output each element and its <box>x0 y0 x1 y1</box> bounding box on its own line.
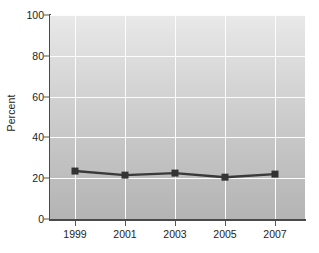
y-tick-label: 80 <box>18 50 44 62</box>
x-axis-line <box>49 219 306 221</box>
x-tick-mark <box>175 220 176 226</box>
x-tick-mark <box>225 220 226 226</box>
x-tick-label: 2003 <box>163 228 186 240</box>
y-tick-mark <box>44 178 50 179</box>
x-tick-label: 2005 <box>213 228 236 240</box>
x-tick-mark <box>75 220 76 226</box>
x-tick-label: 1999 <box>63 228 86 240</box>
y-tick-label: 40 <box>18 131 44 143</box>
y-tick-mark <box>44 219 50 220</box>
x-tick-label: 2001 <box>113 228 136 240</box>
data-point-marker <box>172 170 179 177</box>
plot-area <box>50 15 305 219</box>
x-tick-mark <box>125 220 126 226</box>
data-point-marker <box>222 174 229 181</box>
y-tick-mark <box>44 137 50 138</box>
data-series-layer <box>50 15 305 219</box>
y-tick-mark <box>44 96 50 97</box>
x-tick-label: 2007 <box>263 228 286 240</box>
y-axis-title-label: Percent <box>5 94 17 131</box>
y-tick-label: 100 <box>18 9 44 21</box>
y-axis-tick-labels: 020406080100 <box>18 0 44 253</box>
line-chart: Percent 020406080100 1999200120032005200… <box>0 0 319 253</box>
y-tick-mark <box>44 55 50 56</box>
y-tick-label: 0 <box>18 213 44 225</box>
y-tick-mark <box>44 15 50 16</box>
x-tick-mark <box>275 220 276 226</box>
data-point-marker <box>122 172 129 179</box>
data-point-marker <box>272 171 279 178</box>
y-tick-label: 60 <box>18 91 44 103</box>
y-tick-label: 20 <box>18 172 44 184</box>
data-point-marker <box>72 168 79 175</box>
